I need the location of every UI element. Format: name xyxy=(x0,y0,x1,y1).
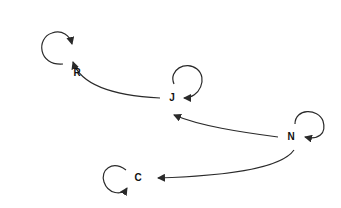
edge-n-to-c xyxy=(158,150,294,178)
edge-j-to-r xyxy=(73,62,160,98)
self-loop-c xyxy=(103,166,127,193)
self-loop-n xyxy=(295,112,324,138)
self-loop-j xyxy=(173,66,202,98)
node-c: C xyxy=(134,173,141,183)
node-j: J xyxy=(169,93,175,103)
self-loop-r xyxy=(42,32,72,64)
edge-n-to-j xyxy=(174,115,278,137)
graph-canvas: R J N C xyxy=(0,0,341,208)
node-r: R xyxy=(73,68,80,78)
graph-edges xyxy=(0,0,341,208)
node-n: N xyxy=(287,132,294,142)
